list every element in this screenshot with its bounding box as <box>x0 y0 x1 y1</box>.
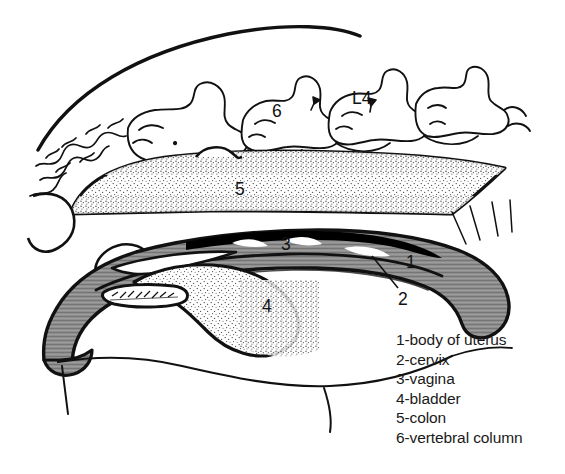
legend-item-6: 6-vertebral column <box>396 428 523 448</box>
svg-text:3: 3 <box>281 234 291 254</box>
vertebra-label-l4: L4 <box>352 88 372 108</box>
legend-item-2: 2-cervix <box>396 350 523 370</box>
cervix-label-2: 2 <box>398 289 408 309</box>
pubic-symphysis <box>102 284 187 307</box>
legend-item-4: 4-bladder <box>396 389 523 409</box>
legend-item-5: 5-colon <box>396 408 523 428</box>
svg-text:6: 6 <box>272 101 282 121</box>
bladder: 4 <box>134 265 320 360</box>
vagina-label-3: 3 <box>281 234 291 254</box>
bladder-label-4: 4 <box>262 296 272 316</box>
uterus-body-label-1: 1 <box>406 252 416 272</box>
svg-text:4: 4 <box>262 296 272 316</box>
legend-item-3: 3-vagina <box>396 369 523 389</box>
legend-item-1: 1-body of uterus <box>396 330 523 350</box>
svg-text:1: 1 <box>406 252 416 272</box>
lumbar-vertebrae <box>128 67 530 162</box>
vertebra-label-6: 6 <box>272 101 282 121</box>
svg-text:L4: L4 <box>352 88 372 108</box>
svg-text:5: 5 <box>235 179 245 199</box>
legend: 1-body of uterus 2-cervix 3-vagina 4-bla… <box>396 330 523 448</box>
colon-label-5: 5 <box>235 179 245 199</box>
bladder-shading <box>240 280 320 360</box>
colon: 5 <box>60 145 520 218</box>
